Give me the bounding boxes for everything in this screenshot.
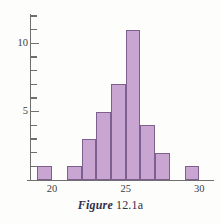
histogram-bar — [185, 166, 200, 180]
histogram-bar — [82, 139, 97, 180]
figure-container: 510 202530 Figure12.1a — [0, 0, 221, 224]
histogram-bar — [140, 125, 155, 180]
y-axis-minor-tick — [31, 15, 37, 16]
histogram-bar — [37, 166, 52, 180]
y-axis-tick-label-wrap: 10 — [6, 38, 28, 49]
y-axis-minor-tick — [31, 152, 37, 153]
y-axis-minor-tick — [31, 84, 37, 85]
histogram-plot: 510 202530 — [0, 0, 221, 195]
histogram-bar — [67, 166, 82, 180]
y-axis-major-tick — [31, 43, 39, 44]
y-axis-minor-tick — [31, 138, 37, 139]
caption-label: Figure — [78, 198, 113, 212]
y-axis-minor-tick — [31, 70, 37, 71]
y-axis-minor-tick — [31, 125, 37, 126]
y-axis-minor-tick — [31, 166, 37, 167]
y-axis-minor-tick — [31, 97, 37, 98]
x-axis-tick-label: 30 — [186, 184, 212, 195]
histogram-bar — [126, 30, 141, 180]
histogram-bar — [111, 84, 126, 180]
caption-number: 12.1a — [116, 198, 143, 212]
y-axis-major-tick — [31, 111, 39, 112]
x-axis-line — [27, 180, 214, 181]
histogram-bar — [155, 153, 170, 180]
y-axis-tick-label: 5 — [8, 106, 28, 117]
x-axis-tick-label: 25 — [113, 184, 139, 195]
y-axis-tick-label: 10 — [8, 38, 28, 49]
figure-caption: Figure12.1a — [0, 198, 221, 213]
y-axis-tick-label-wrap: 5 — [6, 106, 28, 117]
y-axis-minor-tick — [31, 56, 37, 57]
x-axis-tick-label: 20 — [39, 184, 65, 195]
histogram-bar — [96, 112, 111, 180]
y-axis-minor-tick — [31, 29, 37, 30]
